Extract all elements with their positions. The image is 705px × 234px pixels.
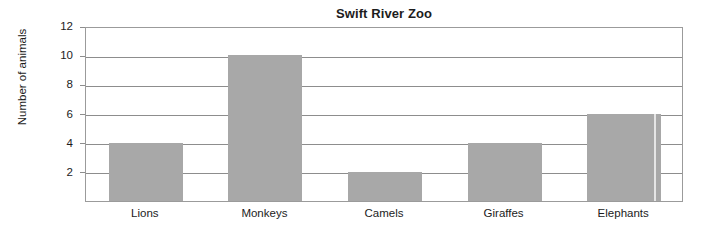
y-axis-tick-label: 10	[47, 50, 73, 62]
chart-title: Swift River Zoo	[85, 6, 683, 21]
gridline	[86, 86, 682, 87]
x-axis-tick-label: Camels	[324, 207, 444, 219]
y-axis-tick-label: 8	[47, 79, 73, 91]
y-axis-tick-label: 4	[47, 138, 73, 150]
bar-giraffes	[468, 143, 542, 201]
gridline	[86, 57, 682, 58]
bar-monkeys	[228, 55, 302, 201]
y-axis-title: Number of animals	[16, 7, 28, 147]
plot-area	[85, 27, 683, 202]
y-axis-tick-label: 2	[47, 167, 73, 179]
y-axis-tick-label: 6	[47, 109, 73, 121]
y-axis-tick-label: 12	[47, 21, 73, 33]
x-axis-tick-label: Monkeys	[205, 207, 325, 219]
bar-elephants	[587, 114, 661, 202]
bar-lions	[109, 143, 183, 201]
bar-chart-figure: Swift River Zoo Number of animals 246810…	[0, 0, 705, 234]
x-axis-tick-label: Elephants	[563, 207, 683, 219]
bar-camels	[348, 172, 422, 201]
x-axis-tick-label: Giraffes	[444, 207, 564, 219]
x-axis-tick-label: Lions	[85, 207, 205, 219]
